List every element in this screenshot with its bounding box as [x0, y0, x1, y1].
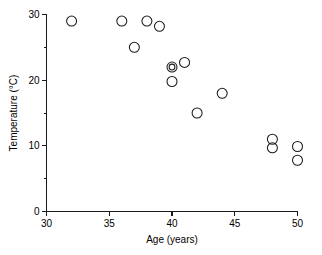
- data-point-marker: [217, 88, 227, 98]
- data-point-marker: [67, 16, 77, 26]
- y-tick-label-30: 30: [28, 9, 40, 20]
- y-axis-title: Temperature (°C): [8, 75, 19, 152]
- data-point-marker: [154, 21, 164, 31]
- plot-canvas: 01020303035404550Age (years)Temperature …: [0, 0, 322, 255]
- scatter-plot-figure: 01020303035404550Age (years)Temperature …: [0, 0, 322, 255]
- axis-spine: [47, 15, 298, 212]
- data-point-marker-stacked: [169, 64, 175, 70]
- x-tick-label-50: 50: [292, 218, 304, 229]
- x-tick-label-40: 40: [166, 218, 178, 229]
- data-point-marker: [293, 155, 303, 165]
- y-tick-label-10: 10: [28, 140, 40, 151]
- x-axis-title: Age (years): [146, 234, 198, 245]
- y-tick-label-0: 0: [34, 206, 40, 217]
- x-tick-label-30: 30: [41, 218, 53, 229]
- x-tick-label-35: 35: [104, 218, 116, 229]
- x-tick-label-45: 45: [229, 218, 241, 229]
- data-point-marker: [293, 141, 303, 151]
- data-point-marker: [129, 42, 139, 52]
- data-point-marker: [192, 108, 202, 118]
- data-point-marker: [117, 16, 127, 26]
- data-point-marker: [167, 76, 177, 86]
- data-point-marker: [142, 16, 152, 26]
- data-point-marker: [180, 57, 190, 67]
- y-tick-label-20: 20: [28, 75, 40, 86]
- data-point-marker-stacked: [167, 62, 177, 72]
